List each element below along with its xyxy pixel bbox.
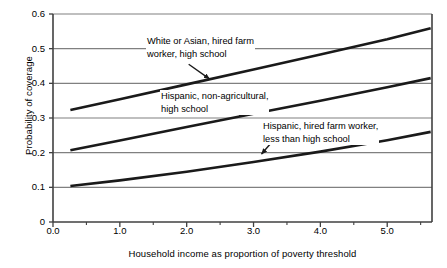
x-tick-label: 3.0 (234, 226, 274, 236)
annotation-line-2: less than high school (263, 133, 378, 146)
annotation-white-asian: White or Asian, hired farm worker, high … (146, 35, 255, 60)
chart-figure: 00.10.20.30.40.50.6 0.01.02.03.04.05.0 P… (0, 0, 447, 268)
x-tick-label: 2.0 (167, 226, 207, 236)
annotation-line-1: Hispanic, non-agricultural, (161, 90, 268, 103)
y-axis-title: Probability of coverage (23, 16, 34, 196)
x-tick-label: 0.0 (33, 226, 73, 236)
annotation-hispanic-hired-farm-worker: Hispanic, hired farm worker, less than h… (262, 120, 379, 145)
x-axis-title: Household income as proportion of povert… (53, 248, 432, 259)
x-tick-label: 4.0 (300, 226, 340, 236)
x-tick-label: 1.0 (100, 226, 140, 236)
annotation-line-1: White or Asian, hired farm (147, 35, 254, 48)
annotation-line-2: high school (161, 103, 268, 116)
x-tick-label: 5.0 (367, 226, 407, 236)
annotation-line-2: worker, high school (147, 48, 254, 61)
annotation-line-1: Hispanic, hired farm worker, (263, 120, 378, 133)
annotation-hispanic-nonagricultural: Hispanic, non-agricultural, high school (160, 90, 269, 115)
